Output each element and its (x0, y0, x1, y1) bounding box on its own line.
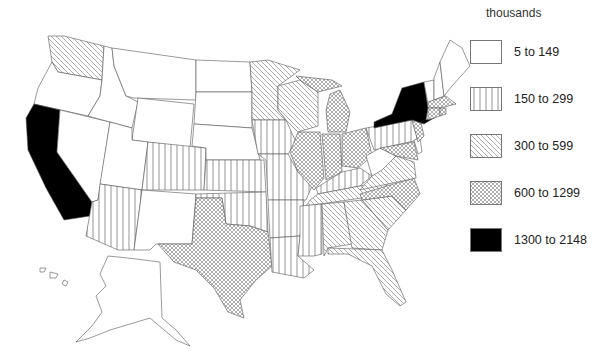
legend-item-5-149: 5 to 149 (470, 28, 599, 75)
state-ks (204, 160, 266, 192)
state-co (142, 142, 206, 190)
state-sd (194, 92, 252, 128)
state-hi-2 (40, 268, 46, 272)
legend-label: 600 to 1299 (514, 186, 580, 200)
state-ia (252, 120, 296, 154)
us-choropleth-map (0, 0, 470, 362)
legend-item-600-1299: 600 to 1299 (470, 169, 599, 216)
legend-label: 5 to 149 (514, 45, 559, 59)
swatch-diagonal-lines-icon (470, 134, 502, 158)
legend-item-300-599: 300 to 599 (470, 122, 599, 169)
legend-title: thousands (486, 6, 599, 20)
state-hi (62, 280, 68, 286)
legend-item-1300-2148: 1300 to 2148 (470, 216, 599, 263)
state-wy (132, 98, 194, 148)
legend-label: 1300 to 2148 (514, 233, 587, 247)
state-hi-3 (50, 272, 58, 278)
state-ar (268, 200, 304, 238)
state-fl (328, 248, 406, 306)
state-ms (298, 204, 322, 256)
map-legend: thousands 5 to 149 150 to 299 300 to 599… (470, 6, 599, 263)
state-ct (428, 108, 440, 120)
state-ri (440, 108, 446, 116)
state-nd (196, 60, 252, 92)
legend-item-150-299: 150 to 299 (470, 75, 599, 122)
legend-label: 150 to 299 (514, 92, 573, 106)
state-me (440, 40, 470, 96)
legend-label: 300 to 599 (514, 139, 573, 153)
swatch-vertical-lines-icon (470, 87, 502, 111)
state-in (322, 134, 342, 180)
state-ak (76, 256, 190, 346)
swatch-crosshatch-icon (470, 181, 502, 205)
state-mi (326, 90, 350, 132)
state-nm (134, 190, 196, 250)
swatch-solid-icon (470, 228, 502, 252)
state-mt (112, 48, 196, 100)
swatch-blank-icon (470, 40, 502, 64)
